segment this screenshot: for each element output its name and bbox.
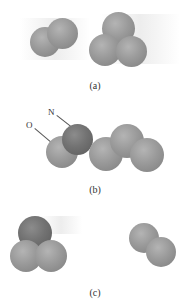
atom (146, 237, 176, 267)
atom (35, 240, 67, 272)
caption-b: (b) (0, 184, 190, 195)
label-nitrogen: N (48, 107, 55, 117)
caption-c: (c) (0, 287, 190, 298)
atom (130, 138, 164, 172)
panel-c: (c) (0, 200, 190, 302)
label-oxygen: O (26, 120, 33, 130)
atom (116, 36, 147, 67)
panel-b: O N (b) (0, 100, 190, 200)
caption-a: (a) (0, 80, 190, 91)
atom (47, 18, 78, 49)
panel-a: (a) (0, 0, 190, 100)
